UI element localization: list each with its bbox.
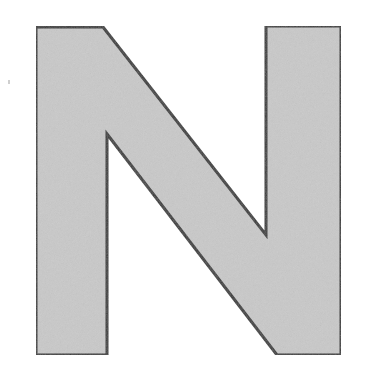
- letter-n-shape: [36, 26, 341, 355]
- letter-canvas: N: [0, 0, 374, 380]
- scan-speck: [8, 80, 10, 84]
- letter-n-glyph: [0, 0, 374, 380]
